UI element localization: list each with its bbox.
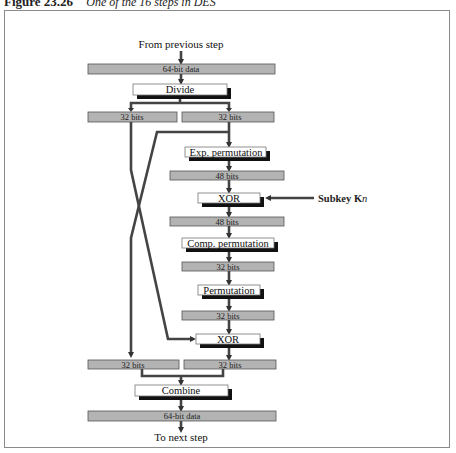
right-half-label: 32 bits <box>219 112 242 122</box>
left-out-box: 32 bits <box>88 360 179 370</box>
right-out-label: 32 bits <box>219 360 242 370</box>
bits48-b-label: 48 bits <box>216 217 239 227</box>
bits48-a-label: 48 bits <box>216 171 239 181</box>
combine-label: Combine <box>162 385 201 396</box>
combine-box: Combine <box>135 385 232 400</box>
data-in-box: 64-bit data <box>88 64 275 74</box>
data-in-label: 64-bit data <box>163 64 200 74</box>
xor1-label: XOR <box>218 193 240 204</box>
xor2-label: XOR <box>217 334 239 345</box>
split-connector <box>131 103 229 110</box>
xor1-box: XOR <box>198 193 264 207</box>
subkey-label: Subkey Kn <box>318 193 367 204</box>
des-round-diagram: From previous step 64-bit data Divide 32… <box>0 0 456 453</box>
left-out-label: 32 bits <box>122 360 145 370</box>
comp-permutation-box: Comp. permutation <box>182 238 278 252</box>
bits32-b-box: 32 bits <box>182 311 274 321</box>
divide-box: Divide <box>133 84 231 99</box>
bits32-b-label: 32 bits <box>217 311 240 321</box>
to-next-step-label: To next step <box>154 431 208 443</box>
right-out-box: 32 bits <box>184 360 276 370</box>
permutation-box: Permutation <box>198 285 264 299</box>
bits32-a-label: 32 bits <box>217 262 240 272</box>
data-out-label: 64-bit data <box>164 411 201 421</box>
from-previous-step-label: From previous step <box>139 38 224 50</box>
exp-permutation-box: Exp. permutation <box>185 147 270 161</box>
right-half-box: 32 bits <box>182 112 274 122</box>
comp-permutation-label: Comp. permutation <box>187 238 269 249</box>
left-to-xor-crossline <box>131 122 193 339</box>
bits32-a-box: 32 bits <box>182 262 274 272</box>
divide-label: Divide <box>166 84 195 95</box>
xor2-box: XOR <box>196 334 264 348</box>
data-out-box: 64-bit data <box>88 411 276 421</box>
left-half-box: 32 bits <box>88 112 177 122</box>
exp-permutation-label: Exp. permutation <box>190 147 264 158</box>
bits48-a-box: 48 bits <box>170 171 284 181</box>
permutation-label: Permutation <box>203 285 255 296</box>
merge-connector <box>142 369 223 376</box>
left-half-label: 32 bits <box>121 112 144 122</box>
bits48-b-box: 48 bits <box>170 217 284 227</box>
